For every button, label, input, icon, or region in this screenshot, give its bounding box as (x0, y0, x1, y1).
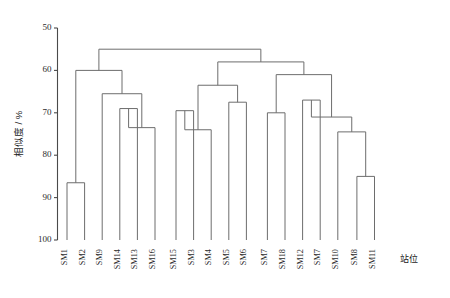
leaf-label: SM4 (204, 248, 213, 265)
leaf-label: SM7 (260, 249, 269, 265)
dendrogram-link (357, 176, 375, 240)
leaf-label: SM6 (239, 249, 248, 265)
dendrogram-link (129, 109, 155, 240)
dendrogram-link (99, 49, 261, 70)
leaf-label: SM12 (296, 249, 305, 269)
dendrogram-link (218, 62, 304, 85)
dendrogram-link (185, 111, 211, 240)
leaf-label: SM1 (60, 249, 69, 265)
y-axis-title: 相似度 / % (13, 110, 24, 157)
dendrogram-plot-area: 5060708090100 SM1SM2SM9SM14SM13SM16SM15S… (0, 0, 450, 298)
y-axis: 5060708090100 (38, 22, 58, 244)
leaf-label: SM8 (350, 249, 359, 265)
leaf-label: SM13 (130, 249, 139, 269)
dendrogram-link (76, 70, 122, 182)
leaf-label: SM18 (278, 249, 287, 269)
y-axis-tick-label: 90 (43, 192, 53, 202)
dendrogram-link (198, 85, 238, 130)
dendrogram-link (120, 109, 138, 240)
dendrogram-link (102, 94, 142, 240)
leaf-label: SM5 (222, 249, 231, 265)
dendrogram-link (229, 102, 247, 240)
leaf-label: SM14 (113, 248, 122, 269)
y-axis-tick-label: 70 (43, 107, 53, 117)
leaf-label: SM10 (331, 249, 340, 269)
leaf-label: SM16 (148, 249, 157, 269)
dendrogram-link (276, 75, 331, 117)
y-axis-tick-label: 100 (38, 234, 52, 244)
leaf-label: SM9 (95, 249, 104, 265)
leaf-label: SM7 (313, 249, 322, 265)
dendrogram-links (67, 49, 375, 240)
leaf-label: SM11 (368, 249, 377, 269)
dendrogram-link (303, 100, 321, 240)
y-axis-tick-label: 50 (43, 22, 53, 32)
leaf-label: SM2 (78, 249, 87, 265)
dendrogram-link (338, 132, 366, 240)
x-axis-title: 站位 (400, 253, 418, 264)
leaf-label: SM15 (169, 249, 178, 269)
y-axis-tick-label: 60 (43, 64, 53, 74)
dendrogram-link (67, 183, 85, 240)
leaf-label: SM3 (187, 249, 196, 265)
dendrogram-link (267, 113, 285, 240)
y-axis-tick-label: 80 (43, 149, 53, 159)
dendrogram-chart: 5060708090100 SM1SM2SM9SM14SM13SM16SM15S… (0, 0, 450, 298)
leaf-labels: SM1SM2SM9SM14SM13SM16SM15SM3SM4SM5SM6SM7… (60, 248, 377, 269)
